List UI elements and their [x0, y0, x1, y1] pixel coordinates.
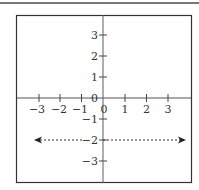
top-rule — [0, 2, 199, 4]
x-label: −3 — [29, 103, 45, 116]
y-label: 3 — [91, 29, 98, 42]
x-label: 2 — [143, 103, 150, 116]
x-label: 1 — [122, 103, 129, 116]
frame — [17, 16, 192, 183]
y-label: −2 — [82, 134, 98, 147]
y-label: 0 — [91, 92, 98, 105]
dashed-line-y-neg2 — [34, 137, 186, 144]
y-label: −1 — [82, 113, 98, 126]
y-label: 1 — [91, 71, 98, 84]
y-label: −3 — [82, 155, 98, 168]
x-label: 0 — [101, 103, 108, 116]
x-label: 3 — [165, 103, 172, 116]
y-label: 2 — [91, 50, 98, 63]
x-tick-labels: −3 −2 −1 0 1 2 3 — [29, 103, 172, 116]
coordinate-plane: −3 −2 −1 0 1 2 3 3 2 1 0 −1 −2 −3 — [0, 0, 199, 190]
x-label: −2 — [51, 103, 67, 116]
